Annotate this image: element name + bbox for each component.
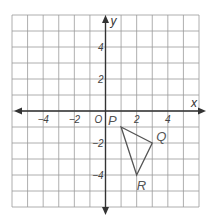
y-tick-label: 2 — [97, 74, 104, 85]
y-tick-label: −4 — [92, 170, 104, 181]
vertex-label-p: P — [108, 113, 117, 128]
origin-label: O — [95, 114, 103, 125]
x-axis-right-arrow-icon — [198, 108, 206, 115]
x-tick-label: 2 — [133, 114, 140, 125]
coordinate-plane: −4−22442−2−4 PQR x y O — [0, 0, 211, 220]
y-axis-label: y — [110, 14, 118, 28]
y-tick-label: −2 — [92, 138, 104, 149]
y-axis-down-arrow-icon — [102, 207, 109, 215]
x-axis-label: x — [190, 96, 198, 110]
x-tick-label: 4 — [165, 114, 171, 125]
vertex-label-r: R — [137, 178, 146, 193]
y-axis-up-arrow-icon — [102, 15, 109, 23]
x-tick-label: −2 — [69, 114, 81, 125]
y-tick-label: 4 — [98, 42, 104, 53]
x-axis-left-arrow-icon — [14, 108, 22, 115]
vertex-label-q: Q — [156, 129, 166, 144]
x-tick-label: −4 — [37, 114, 49, 125]
vertex-labels: PQR — [108, 113, 166, 193]
